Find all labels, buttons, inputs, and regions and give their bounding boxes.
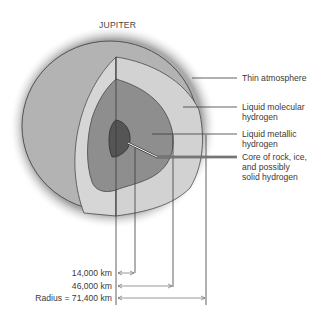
label-liquid-molecular-hydrogen: Liquid molecular hydrogen (242, 102, 307, 122)
label-core: Core of rock, ice, and possibly solid hy… (242, 152, 309, 182)
measure-label-metallic: 46,000 km (72, 281, 112, 291)
measure-radius: Radius = 71,400 km (35, 293, 205, 303)
label-liquid-metallic-hydrogen: Liquid metallic hydrogen (242, 129, 299, 149)
measure-core: 14,000 km (72, 268, 134, 278)
jupiter-diagram: JUPITER Thin atmosphere Liquid molecular… (0, 0, 325, 320)
measure-label-radius: Radius = 71,400 km (35, 293, 112, 303)
measure-metallic: 46,000 km (72, 281, 172, 291)
label-thin-atmosphere: Thin atmosphere (242, 73, 307, 83)
measure-label-core: 14,000 km (72, 268, 112, 278)
